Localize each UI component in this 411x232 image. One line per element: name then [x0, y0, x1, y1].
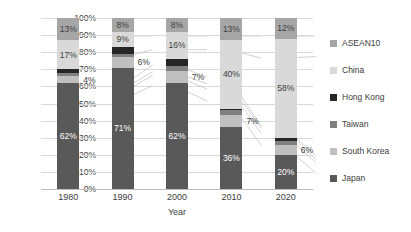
- bar-segment-china[interactable]: 17%: [57, 40, 79, 69]
- x-axis-tick-label-2020: 2020: [256, 193, 316, 202]
- x-axis-title: Year: [41, 208, 313, 217]
- bar-segment-hong-kong[interactable]: [166, 59, 188, 66]
- legend-item-label: Hong Kong: [342, 93, 385, 102]
- bar-segment-asean10[interactable]: 8%: [112, 18, 134, 32]
- bar-segment-china[interactable]: 16%: [166, 32, 188, 59]
- segment-value-label: 62%: [168, 132, 185, 141]
- segment-value-label: 8%: [116, 21, 128, 30]
- bar-segment-hong-kong[interactable]: [57, 69, 79, 72]
- legend-swatch-icon: [330, 121, 337, 128]
- legend-swatch-icon: [330, 67, 337, 74]
- bar-segment-taiwan[interactable]: [57, 73, 79, 76]
- bar-segment-china[interactable]: 9%: [112, 32, 134, 47]
- bar-segment-japan[interactable]: 20%: [275, 155, 297, 189]
- segment-value-label: 13%: [60, 25, 77, 34]
- legend-item-label: China: [342, 66, 364, 75]
- legend-swatch-icon: [330, 40, 337, 47]
- stacked-bar-chart: 0%10%20%30%40%50%60%70%80%90%100% 62%4%1…: [0, 0, 411, 232]
- segment-value-label: 6%: [301, 145, 313, 154]
- bar-segment-asean10[interactable]: 13%: [220, 18, 242, 40]
- legend-swatch-icon: [330, 175, 337, 182]
- bar-segment-south-korea[interactable]: 7%: [220, 115, 242, 127]
- segment-value-label: 7%: [246, 117, 258, 126]
- bar-segment-south-korea[interactable]: 4%: [57, 76, 79, 83]
- bar-segment-asean10[interactable]: 13%: [57, 18, 79, 40]
- bar-segment-asean10[interactable]: 12%: [275, 18, 297, 39]
- bar-segment-japan[interactable]: 62%: [166, 83, 188, 189]
- bar-segment-hong-kong[interactable]: [275, 138, 297, 141]
- bar-segment-taiwan[interactable]: [275, 141, 297, 144]
- legend-swatch-icon: [330, 148, 337, 155]
- bar-segment-south-korea[interactable]: 6%: [275, 145, 297, 155]
- legend-item-asean10[interactable]: ASEAN10: [330, 30, 410, 57]
- x-axis-tick-label-2010: 2010: [201, 193, 261, 202]
- bar-column-1980[interactable]: 62%4%17%13%: [57, 18, 79, 189]
- legend-item-label: Japan: [342, 174, 365, 183]
- legend-item-south-korea[interactable]: South Korea: [330, 138, 410, 165]
- bar-segment-south-korea[interactable]: 7%: [166, 71, 188, 83]
- legend-item-label: Taiwan: [342, 120, 368, 129]
- bar-segment-japan[interactable]: 36%: [220, 127, 242, 189]
- bar-segment-japan[interactable]: 71%: [112, 68, 134, 189]
- segment-value-label: 20%: [277, 168, 294, 177]
- segment-value-label: 12%: [277, 24, 294, 33]
- bar-column-2000[interactable]: 62%7%16%8%: [166, 18, 188, 189]
- x-axis-tick-label-2000: 2000: [147, 193, 207, 202]
- bar-segment-china[interactable]: 58%: [275, 39, 297, 138]
- bar-segment-taiwan[interactable]: [112, 54, 134, 57]
- segment-value-label: 4%: [83, 75, 95, 84]
- plot-area: 62%4%17%13%71%6%9%8%62%7%16%8%36%7%40%13…: [41, 18, 313, 189]
- legend-item-taiwan[interactable]: Taiwan: [330, 111, 410, 138]
- bar-segment-south-korea[interactable]: 6%: [112, 57, 134, 67]
- segment-value-label: 40%: [223, 70, 240, 79]
- x-axis-tick-label-1990: 1990: [93, 193, 153, 202]
- segment-value-label: 9%: [116, 35, 128, 44]
- segment-value-label: 13%: [223, 25, 240, 34]
- segment-value-label: 6%: [138, 58, 150, 67]
- segment-value-label: 8%: [171, 21, 183, 30]
- segment-value-label: 71%: [114, 124, 131, 133]
- segment-value-label: 17%: [60, 51, 77, 60]
- legend-item-label: South Korea: [342, 147, 389, 156]
- bar-segment-hong-kong[interactable]: [220, 109, 242, 111]
- bar-column-2010[interactable]: 36%7%40%13%: [220, 18, 242, 189]
- segment-value-label: 7%: [192, 73, 204, 82]
- x-axis-tick-label-1980: 1980: [38, 193, 98, 202]
- segment-value-label: 62%: [60, 132, 77, 141]
- legend-item-japan[interactable]: Japan: [330, 165, 410, 192]
- legend-item-label: ASEAN10: [342, 39, 380, 48]
- segment-value-label: 16%: [168, 41, 185, 50]
- bar-column-2020[interactable]: 20%6%58%12%: [275, 18, 297, 189]
- bar-segment-japan[interactable]: 62%: [57, 83, 79, 189]
- legend-item-china[interactable]: China: [330, 57, 410, 84]
- bar-segment-china[interactable]: 40%: [220, 40, 242, 108]
- bar-segment-asean10[interactable]: 8%: [166, 18, 188, 32]
- chart-legend: ASEAN10ChinaHong KongTaiwanSouth KoreaJa…: [330, 30, 410, 192]
- bar-segment-hong-kong[interactable]: [112, 47, 134, 54]
- bar-segment-taiwan[interactable]: [166, 66, 188, 71]
- bar-segment-taiwan[interactable]: [220, 110, 242, 115]
- segment-value-label: 36%: [223, 154, 240, 163]
- x-axis-line: [41, 189, 313, 190]
- legend-item-hong-kong[interactable]: Hong Kong: [330, 84, 410, 111]
- bar-column-1990[interactable]: 71%6%9%8%: [112, 18, 134, 189]
- legend-swatch-icon: [330, 94, 337, 101]
- segment-value-label: 58%: [277, 84, 294, 93]
